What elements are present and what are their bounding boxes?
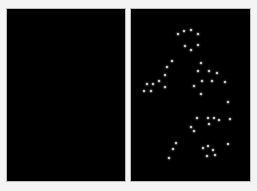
right-panel-point-light-figure	[130, 8, 251, 182]
light-point	[197, 33, 199, 35]
light-point	[175, 142, 177, 144]
light-point	[190, 126, 192, 128]
light-point	[227, 101, 229, 103]
light-point	[200, 62, 202, 64]
light-point	[206, 155, 208, 157]
light-point	[208, 123, 210, 125]
light-point	[172, 148, 174, 150]
light-point	[211, 80, 213, 82]
light-point	[193, 130, 195, 132]
light-point	[183, 30, 185, 32]
left-panel-blank	[6, 8, 126, 182]
light-point	[168, 157, 170, 159]
light-point	[193, 85, 195, 87]
light-point	[218, 119, 220, 121]
light-point	[150, 90, 152, 92]
light-point	[152, 83, 154, 85]
light-point	[201, 80, 203, 82]
light-point	[164, 86, 166, 88]
light-point	[146, 83, 148, 85]
light-point	[177, 33, 179, 35]
light-point	[200, 93, 202, 95]
light-point	[227, 143, 229, 145]
light-point	[212, 149, 214, 151]
light-point	[166, 66, 168, 68]
light-point	[143, 90, 145, 92]
light-point	[197, 44, 199, 46]
light-point	[171, 60, 173, 62]
light-point	[158, 80, 160, 82]
light-point	[164, 74, 166, 76]
light-point	[190, 49, 192, 51]
light-point	[197, 70, 199, 72]
light-point	[202, 147, 204, 149]
light-point	[229, 118, 231, 120]
light-point	[184, 45, 186, 47]
light-point	[214, 154, 216, 156]
light-point	[196, 117, 198, 119]
light-point	[216, 72, 218, 74]
light-point	[207, 117, 209, 119]
light-point	[207, 145, 209, 147]
light-point	[224, 81, 226, 83]
light-point	[213, 117, 215, 119]
light-point	[190, 29, 192, 31]
light-point	[208, 70, 210, 72]
